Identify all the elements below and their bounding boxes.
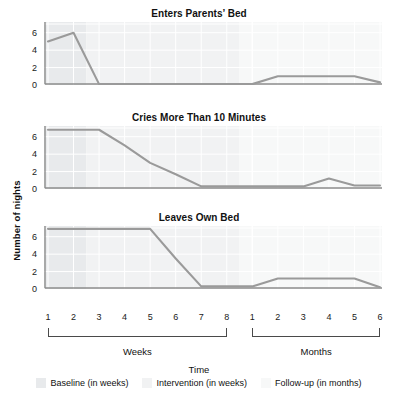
axis-bracket-label: Months: [301, 346, 332, 357]
x-tick-label: 5: [148, 312, 153, 322]
multiple-baseline-figure: Number of nights Enters Parents’ Bed0246…: [0, 0, 398, 405]
y-tick-label: 4: [32, 150, 37, 159]
x-tick-label: 1: [45, 312, 50, 322]
x-tick-label: 4: [326, 312, 331, 322]
legend-label: Follow-up (in months): [275, 378, 362, 388]
x-tick-label: 5: [352, 312, 357, 322]
y-tick-label: 6: [32, 28, 37, 37]
axis-bracket: [252, 328, 380, 337]
y-tick-labels: 0246: [16, 126, 40, 189]
legend-item: Intervention (in weeks): [142, 378, 247, 388]
y-tick-labels: 0246: [16, 226, 40, 289]
y-tick-label: 0: [32, 285, 37, 294]
chart-panel: Enters Parents’ Bed0246: [0, 8, 398, 87]
chart-title: Leaves Own Bed: [0, 212, 398, 223]
y-tick-label: 2: [32, 167, 37, 176]
plot-area: [44, 126, 382, 189]
y-tick-label: 4: [32, 46, 37, 55]
y-tick-label: 0: [32, 185, 37, 194]
phase-band-intervention: [86, 22, 239, 85]
phase-band-baseline: [44, 126, 86, 189]
x-axis: 12345678123456WeeksMonths: [44, 312, 382, 366]
phase-band-baseline: [44, 22, 86, 85]
x-tick-label: 3: [97, 312, 102, 322]
chart-panel: Leaves Own Bed0246: [0, 212, 398, 291]
x-tick-label: 6: [377, 312, 382, 322]
phase-band-intervention: [86, 226, 239, 289]
y-tick-label: 6: [32, 232, 37, 241]
y-tick-label: 2: [32, 63, 37, 72]
chart-title: Enters Parents’ Bed: [0, 8, 398, 19]
phase-band-follow-up: [240, 126, 382, 189]
legend-label: Intervention (in weeks): [156, 378, 247, 388]
y-tick-label: 4: [32, 250, 37, 259]
x-tick-label: 6: [173, 312, 178, 322]
legend-swatch: [36, 378, 46, 388]
y-tick-label: 6: [32, 132, 37, 141]
axis-bracket-label: Weeks: [123, 346, 152, 357]
phase-band-baseline: [44, 226, 86, 289]
x-tick-label: 1: [250, 312, 255, 322]
y-tick-label: 0: [32, 81, 37, 90]
y-tick-labels: 0246: [16, 22, 40, 85]
x-tick-label: 2: [275, 312, 280, 322]
x-axis-title: Time: [0, 364, 398, 375]
legend-item: Follow-up (in months): [261, 378, 362, 388]
plot-area: [44, 22, 382, 85]
chart-panel: Cries More Than 10 Minutes0246: [0, 112, 398, 191]
axis-bracket: [48, 328, 227, 337]
legend-swatch: [142, 378, 152, 388]
legend-item: Baseline (in weeks): [36, 378, 128, 388]
chart-title: Cries More Than 10 Minutes: [0, 112, 398, 123]
x-tick-label: 4: [122, 312, 127, 322]
y-tick-label: 2: [32, 267, 37, 276]
plot-area: [44, 226, 382, 289]
x-tick-label: 7: [199, 312, 204, 322]
legend-label: Baseline (in weeks): [50, 378, 128, 388]
x-tick-label: 8: [224, 312, 229, 322]
legend-swatch: [261, 378, 271, 388]
legend: Baseline (in weeks)Intervention (in week…: [0, 378, 398, 388]
x-tick-label: 2: [71, 312, 76, 322]
x-tick-label: 3: [301, 312, 306, 322]
